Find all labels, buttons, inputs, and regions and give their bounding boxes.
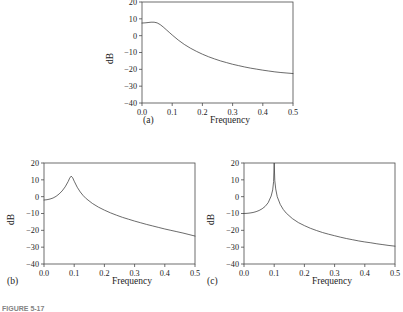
plot-c-svg: 20100−10−20−30−400.00.10.20.30.40.5: [202, 155, 402, 285]
panel-c-xlabel: Frequency: [272, 276, 392, 286]
y-tick-label: 0: [235, 193, 239, 202]
panel-c-ylabel: dB: [206, 207, 216, 225]
y-tick-label: 20: [129, 0, 137, 7]
y-tick-label: 0: [133, 32, 137, 41]
y-tick-label: −10: [26, 209, 39, 218]
y-tick-label: −30: [124, 82, 137, 91]
panel-a-ylabel: dB: [105, 46, 115, 64]
panel-a-letter: (a): [143, 115, 154, 125]
data-curve: [44, 176, 195, 236]
panel-b-letter: (b): [7, 276, 18, 286]
panel-b-ylabel: dB: [6, 207, 16, 225]
y-tick-label: −30: [26, 243, 39, 252]
data-curve: [244, 163, 395, 246]
x-tick-label: 0.0: [239, 269, 249, 278]
data-curve: [142, 22, 293, 73]
y-tick-label: −40: [124, 99, 137, 108]
panel-b-xlabel: Frequency: [72, 276, 192, 286]
y-tick-label: 0: [35, 193, 39, 202]
y-tick-label: −20: [26, 226, 39, 235]
plot-a-svg: 20100−10−20−30−400.00.10.20.30.40.5: [100, 0, 300, 124]
panel-c: 20100−10−20−30−400.00.10.20.30.40.5: [202, 155, 402, 285]
x-tick-label: 0.0: [39, 269, 49, 278]
y-tick-label: −10: [226, 209, 239, 218]
y-tick-label: −20: [124, 65, 137, 74]
panel-a: 20100−10−20−30−400.00.10.20.30.40.5: [100, 0, 300, 124]
plot-b-svg: 20100−10−20−30−400.00.10.20.30.40.5: [2, 155, 202, 285]
figure-caption: FIGURE 5-17: [2, 305, 44, 312]
y-tick-label: 20: [231, 159, 239, 168]
y-tick-label: −30: [226, 243, 239, 252]
panel-a-xlabel: Frequency: [170, 115, 290, 125]
y-tick-label: −10: [124, 48, 137, 57]
plot-frame: [44, 163, 195, 264]
plot-frame: [244, 163, 395, 264]
panel-c-letter: (c): [207, 276, 218, 286]
plot-frame: [142, 2, 293, 103]
y-tick-label: 10: [231, 176, 239, 185]
y-tick-label: −20: [226, 226, 239, 235]
y-tick-label: 20: [31, 159, 39, 168]
panel-b: 20100−10−20−30−400.00.10.20.30.40.5: [2, 155, 202, 285]
y-tick-label: 10: [31, 176, 39, 185]
y-tick-label: −40: [26, 260, 39, 269]
y-tick-label: 10: [129, 15, 137, 24]
y-tick-label: −40: [226, 260, 239, 269]
